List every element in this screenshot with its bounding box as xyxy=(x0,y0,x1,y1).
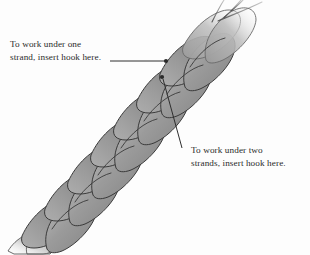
braid-segment-top-fade xyxy=(183,8,256,63)
callout-one-line-1: To work under one xyxy=(10,38,101,51)
callout-one-line-2: strand, insert hook here. xyxy=(10,51,101,64)
insertion-marker-two-strands xyxy=(160,75,164,79)
callout-two-line-2: strands, insert hook here. xyxy=(191,157,286,170)
insertion-marker-one-strand xyxy=(164,59,168,63)
callout-under-one-strand: To work under one strand, insert hook he… xyxy=(10,38,101,63)
braid-diagram-page: To work under one strand, insert hook he… xyxy=(0,0,310,255)
callout-two-line-1: To work under two xyxy=(191,144,286,157)
callout-under-two-strands: To work under two strands, insert hook h… xyxy=(191,144,286,169)
